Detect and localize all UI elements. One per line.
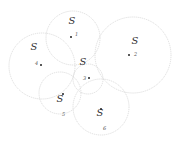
node-dot-icon: [128, 54, 130, 56]
coverage-diagram: S1S2S3S4S5S6: [0, 0, 177, 143]
coverage-circles: [9, 11, 171, 135]
node-5: S5: [57, 93, 66, 117]
sensor-label: S: [31, 41, 38, 52]
sensor-label: S: [69, 15, 76, 26]
sensor-label: S: [132, 35, 139, 46]
node-number-label: 4: [34, 60, 38, 66]
node-dot-icon: [88, 77, 90, 79]
node-number-label: 5: [62, 111, 65, 117]
node-number-label: 6: [103, 125, 107, 131]
node-dot-icon: [62, 93, 64, 95]
sensor-label: S: [80, 56, 87, 67]
node-dot-icon: [100, 108, 102, 110]
coverage-circle-3: [73, 64, 103, 94]
node-4: S4: [31, 41, 42, 66]
coverage-circle-4: [9, 33, 75, 99]
node-number-label: 2: [133, 51, 137, 57]
node-2: S2: [128, 35, 139, 57]
node-number-label: 1: [75, 31, 78, 37]
coverage-circle-2: [95, 17, 171, 93]
node-dot-icon: [40, 64, 42, 66]
node-dot-icon: [70, 36, 72, 38]
node-number-label: 3: [83, 75, 86, 81]
node-6: S6: [97, 107, 107, 131]
node-3: S3: [80, 56, 90, 81]
node-1: S1: [69, 15, 79, 38]
